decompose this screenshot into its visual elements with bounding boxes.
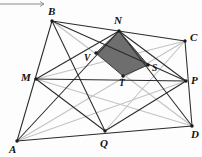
point-label-n: N — [114, 15, 122, 26]
point-label-d: D — [191, 129, 199, 140]
shaded-quadrilateral-nvts — [96, 31, 148, 76]
point-label-b: B — [48, 6, 55, 17]
point-label-p: P — [191, 75, 198, 86]
point-label-t: T — [119, 79, 125, 89]
geometry-figure: ABCDMNPQVST — [0, 0, 202, 157]
point-label-m: M — [21, 72, 31, 83]
point-label-a: A — [9, 144, 16, 155]
point-label-v: V — [84, 54, 90, 64]
point-label-s: S — [152, 64, 157, 74]
ruler-scale-mark — [0, 2, 44, 7]
point-label-c: C — [190, 32, 197, 43]
point-label-q: Q — [100, 138, 108, 149]
